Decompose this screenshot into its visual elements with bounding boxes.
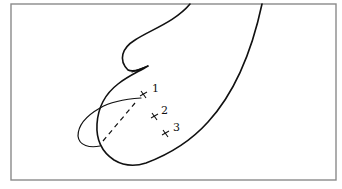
dashed-connector: [103, 103, 135, 141]
point-1-marker: [140, 91, 147, 98]
diagram-frame: [11, 4, 336, 180]
point-2-label: 2: [161, 104, 168, 117]
point-1-label: 1: [152, 82, 159, 95]
diagram-canvas: 1 2 3: [0, 0, 342, 189]
point-3-marker: [162, 130, 169, 137]
point-2-marker: [151, 113, 158, 120]
left-loop: [78, 98, 141, 147]
lobe-outline: [97, 4, 262, 165]
point-3-label: 3: [173, 121, 180, 134]
